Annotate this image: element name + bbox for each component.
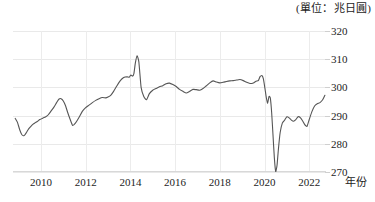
- x-tick-label: 2016: [164, 176, 186, 188]
- y-tick-label: 290: [331, 111, 348, 122]
- y-tick-mark: [325, 172, 330, 173]
- y-tick-mark: [325, 87, 330, 88]
- x-tick-label: 2010: [30, 176, 52, 188]
- unit-caption: (單位：兆日圓): [296, 2, 371, 15]
- y-tick-mark: [325, 59, 330, 60]
- y-tick-mark: [325, 144, 330, 145]
- y-tick-mark: [325, 116, 330, 117]
- plot-area: [13, 31, 326, 172]
- y-tick-mark: [325, 31, 330, 32]
- y-tick-label: 300: [331, 82, 348, 93]
- y-tick-label: 280: [331, 139, 348, 150]
- series-line-chart: [13, 31, 326, 172]
- y-tick-text: 320: [331, 25, 348, 37]
- y-tick-text: 300: [331, 81, 348, 93]
- x-tick-label: 2022: [298, 176, 320, 188]
- y-tick-text: 310: [331, 53, 348, 65]
- y-tick-text: 280: [331, 138, 348, 150]
- y-tick-label: 310: [331, 54, 348, 65]
- chart-figure: (單位：兆日圓) 320310300290280270 201020122014…: [0, 0, 375, 202]
- gridline-horizontal: [13, 172, 326, 173]
- x-tick-label: 2020: [254, 176, 276, 188]
- x-tick-label: 2012: [75, 176, 97, 188]
- series-path-balance: [15, 56, 325, 172]
- x-tick-label: 2018: [209, 176, 231, 188]
- x-axis-title: 年份: [345, 176, 367, 188]
- x-tick-label: 2014: [119, 176, 141, 188]
- y-tick-text: 290: [331, 110, 348, 122]
- y-tick-label: 320: [331, 26, 348, 37]
